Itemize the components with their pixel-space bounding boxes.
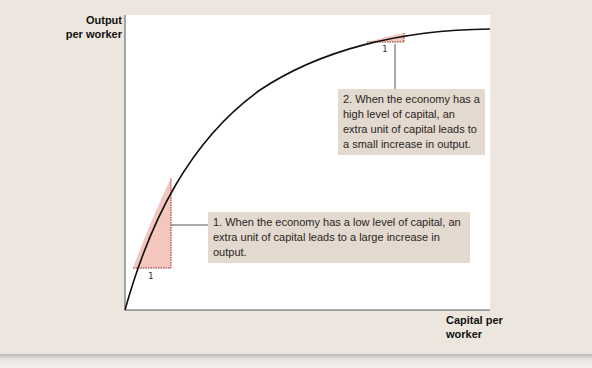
low-capital-highlight (133, 178, 171, 268)
x-axis-label-line1: Capital per (446, 313, 503, 327)
x-axis-label: Capital per worker (446, 313, 503, 341)
y-axis-label: Output per worker (66, 13, 122, 41)
high-capital-note: 2. When the economy has a high level of … (338, 89, 485, 155)
low-capital-run-label: 1 (148, 271, 153, 281)
x-axis-label-line2: worker (446, 327, 503, 341)
y-axis-label-line1: Output (66, 13, 122, 27)
production-curve (125, 29, 490, 310)
high-capital-run-label: 1 (382, 44, 387, 54)
production-function-chart (0, 0, 592, 368)
y-axis-label-line2: per worker (66, 27, 122, 41)
low-capital-note: 1. When the economy has a low level of c… (208, 212, 470, 263)
